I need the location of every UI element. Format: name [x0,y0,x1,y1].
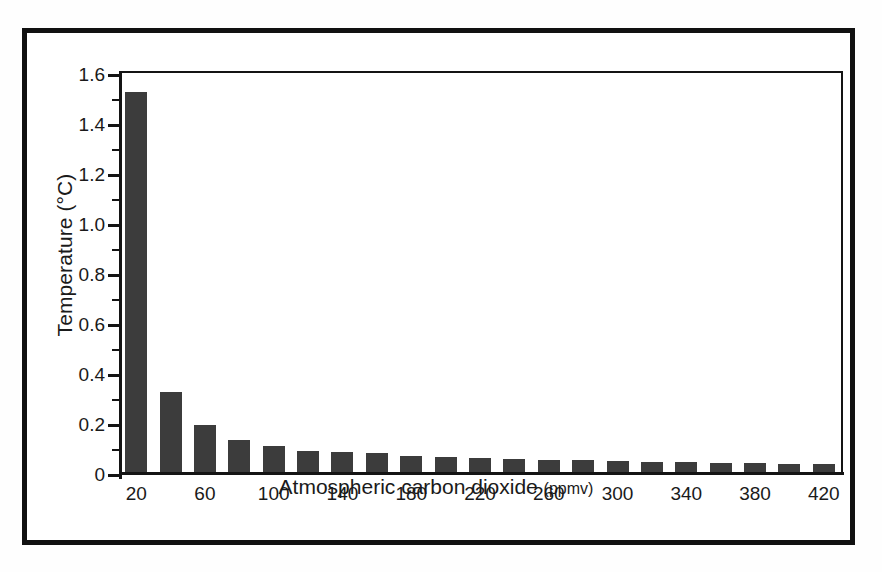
y-tick-major [108,374,119,377]
y-tick-minor [112,99,119,101]
y-tick-minor [112,299,119,301]
y-tick-major [108,174,119,177]
bar [125,92,147,472]
axis-spine-right [841,71,843,475]
chart-frame: Temperature (°C) 00.20.40.60.81.01.21.41… [22,28,855,545]
y-tick-minor [112,399,119,401]
axis-spine-left [119,71,122,479]
y-tick-major [108,324,119,327]
bar [778,464,800,473]
y-tick-minor [112,149,119,151]
bar [710,463,732,473]
y-tick-label: 0.8 [49,264,105,286]
axis-spine-top [119,71,843,73]
bar [813,464,835,472]
bar [160,392,182,472]
y-tick-minor [112,449,119,451]
bar [331,452,353,472]
figure: Temperature (°C) 00.20.40.60.81.01.21.41… [0,0,882,572]
x-axis-title: Atmospheric carbon dioxide (ppmv) [27,475,845,499]
y-tick-minor [112,349,119,351]
bar [503,459,525,472]
bar [469,458,491,472]
bar [607,461,629,472]
y-tick-label: 1.2 [49,164,105,186]
x-axis-unit: (ppmv) [544,480,594,497]
y-tick-major [108,274,119,277]
bar [228,440,250,473]
bar [538,460,560,473]
bar [366,453,388,472]
y-tick-major [108,124,119,127]
y-tick-major [108,424,119,427]
y-tick-label: 1.0 [49,214,105,236]
y-tick-major [108,224,119,227]
y-tick-minor [112,199,119,201]
y-tick-label: 1.6 [49,64,105,86]
y-tick-label: 0.2 [49,414,105,436]
bar [400,456,422,472]
x-axis-title-text: Atmospheric carbon dioxide [279,475,538,498]
y-tick-label: 0.4 [49,364,105,386]
y-tick-major [108,74,119,77]
y-tick-label: 0.6 [49,314,105,336]
bar [297,451,319,472]
y-tick-label: 1.4 [49,114,105,136]
plot-area: 00.20.40.60.81.01.21.41.6 20601001401802… [119,75,841,475]
bar [435,457,457,472]
bar [572,460,594,472]
bar [194,425,216,473]
bar [641,462,663,473]
bar [744,463,766,472]
bar [675,462,697,472]
y-tick-minor [112,249,119,251]
bar [263,446,285,472]
